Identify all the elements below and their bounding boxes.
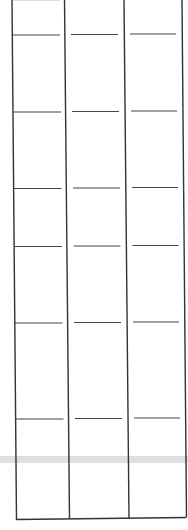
bottom-border bbox=[17, 518, 187, 520]
vertical-line-4 bbox=[182, 0, 187, 517]
vertical-line-2 bbox=[65, 0, 70, 519]
row-divider-3 bbox=[14, 188, 178, 189]
row-divider-2 bbox=[14, 111, 178, 112]
scan-band bbox=[0, 456, 188, 463]
row-divider-5 bbox=[15, 322, 179, 323]
vertical-line-3 bbox=[124, 0, 129, 518]
row-divider-4 bbox=[15, 246, 179, 247]
grid-drawing bbox=[0, 0, 188, 530]
vertical-line-1 bbox=[12, 0, 17, 520]
row-divider-1 bbox=[13, 34, 176, 35]
row-divider-6 bbox=[16, 418, 180, 419]
